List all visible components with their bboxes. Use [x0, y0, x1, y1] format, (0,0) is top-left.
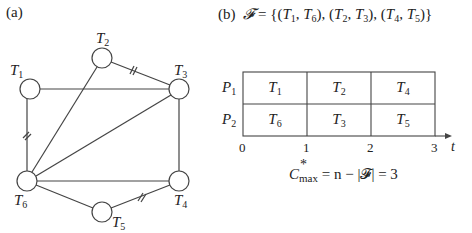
gantt-cell: T6	[243, 111, 307, 129]
node-label-t1: T1	[10, 62, 23, 80]
panel-b-label: (b)	[218, 6, 236, 22]
edge-t6-t5	[36, 185, 93, 208]
gantt-cell: T1	[243, 79, 307, 97]
gantt-cell: T3	[307, 111, 371, 129]
processor-label-p1: P1	[222, 79, 236, 97]
node-label-t6: T6	[14, 192, 27, 210]
edge-t2-t3	[111, 62, 170, 85]
node-t6	[17, 171, 37, 191]
panel-b-header: (b) 𝓕 = {(T1, T6), (T2, T3), (T4, T5)}	[218, 6, 432, 24]
gantt-cell: T4	[371, 79, 435, 97]
gantt-cell: T2	[307, 79, 371, 97]
node-t1	[20, 79, 40, 99]
node-t3	[169, 79, 189, 99]
axis-tick-3: 3	[431, 140, 438, 156]
node-t5	[92, 202, 112, 222]
node-t2	[92, 48, 112, 68]
node-label-t3: T3	[174, 62, 187, 80]
edge-t2-t6	[32, 67, 97, 172]
axis-tick-1: 1	[303, 140, 310, 156]
axis-tick-0: 0	[239, 140, 246, 156]
node-label-t2: T2	[96, 30, 109, 48]
processor-label-p2: P2	[222, 111, 236, 129]
gantt-cell: T5	[371, 111, 435, 129]
edge-t3-t6	[36, 95, 171, 176]
makespan-formula: C*max = n − |𝓕| = 3	[289, 166, 398, 184]
node-label-t5: T5	[112, 214, 125, 232]
axis-tick-2: 2	[367, 140, 374, 156]
node-t4	[169, 171, 189, 191]
axis-label-t: t	[451, 139, 455, 155]
node-label-t4: T4	[174, 192, 187, 210]
